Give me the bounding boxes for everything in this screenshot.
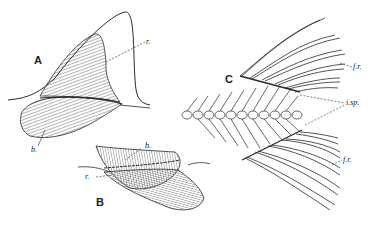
vertebral-column	[182, 111, 302, 119]
annotation-b-r: r.	[85, 173, 89, 181]
annotation-b-b: b.	[145, 142, 151, 150]
panel-c-drawing	[182, 18, 352, 210]
panel-label-c: C	[225, 74, 233, 85]
panel-label-a: A	[34, 55, 42, 66]
annotation-c-fr-top: f.r.	[353, 63, 361, 71]
figure-drawing	[0, 0, 377, 226]
panel-a-drawing	[8, 12, 150, 146]
annotation-c-isp: i.sp.	[346, 99, 359, 107]
annotation-a-r: r.	[146, 38, 150, 46]
annotation-c-fr-bottom: f.r.	[343, 156, 351, 164]
annotation-a-b: b.	[31, 146, 37, 154]
fin-skeleton-figure: A B C r. b. b. r. f.r. i.sp. f.r.	[0, 0, 377, 226]
panel-label-b: B	[96, 197, 104, 208]
